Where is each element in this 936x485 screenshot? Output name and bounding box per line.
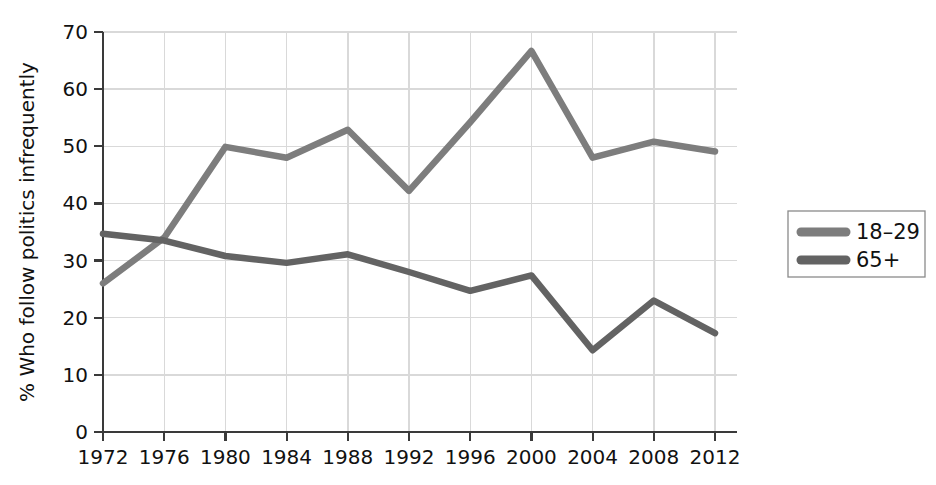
legend-label-65-plus: 65+ [856,248,900,272]
legend-label-18-29: 18–29 [856,220,920,244]
horizontal-gridlines [103,32,737,432]
x-axis-ticks [103,432,715,441]
y-tick-label: 60 [63,77,88,101]
y-tick-label: 0 [75,420,88,444]
x-axis-tick-labels: 1972197619801984198819921996200020042008… [78,445,741,469]
x-tick-label: 1980 [200,445,251,469]
x-tick-label: 2012 [690,445,741,469]
y-tick-label: 30 [63,249,88,273]
x-tick-label: 1984 [261,445,312,469]
y-tick-label: 50 [63,134,88,158]
chart-figure: 010203040506070 197219761980198419881992… [0,0,936,485]
x-tick-label: 1972 [78,445,129,469]
x-tick-label: 1996 [445,445,496,469]
y-tick-label: 70 [63,20,88,44]
line-chart-canvas: 010203040506070 197219761980198419881992… [0,0,936,485]
axes [103,32,737,432]
x-tick-label: 1976 [139,445,190,469]
y-axis-title: % Who follow politics infrequently [15,62,39,402]
y-tick-label: 20 [63,306,88,330]
x-tick-label: 2004 [567,445,618,469]
y-axis-tick-labels: 010203040506070 [63,20,88,444]
vertical-gridlines [103,32,715,432]
y-tick-label: 40 [63,191,88,215]
x-tick-label: 1992 [384,445,435,469]
x-tick-label: 1988 [322,445,373,469]
x-tick-label: 2008 [628,445,679,469]
x-tick-label: 2000 [506,445,557,469]
y-tick-label: 10 [63,363,88,387]
chart-legend: 18–2965+ [788,211,925,277]
